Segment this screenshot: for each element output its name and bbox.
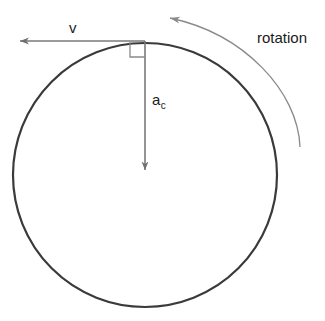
- circular-motion-diagram: v ac rotation: [0, 0, 325, 321]
- diagram-canvas: [0, 0, 325, 321]
- centripetal-acceleration-label: ac: [152, 92, 165, 107]
- acceleration-subscript-text: c: [161, 100, 166, 111]
- rotation-label: rotation: [257, 30, 307, 45]
- acceleration-base-text: a: [152, 91, 160, 108]
- velocity-label: v: [69, 20, 77, 35]
